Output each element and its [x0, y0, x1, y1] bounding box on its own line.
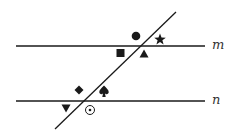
- triangle-up-icon: [140, 50, 149, 58]
- line-m-label: m: [212, 37, 224, 52]
- spade-icon: [99, 86, 108, 98]
- triangle-down-icon: [62, 105, 71, 113]
- transversal-line: [55, 12, 176, 129]
- diagram-svg: m n: [0, 0, 234, 140]
- line-n-label: n: [212, 92, 220, 107]
- diamond-icon: [75, 86, 84, 95]
- square-icon: [117, 49, 125, 57]
- circle-icon: [132, 32, 141, 41]
- star-icon: [154, 34, 166, 45]
- parallel-lines-diagram: m n: [0, 0, 234, 140]
- circled-dot-icon: [86, 106, 95, 115]
